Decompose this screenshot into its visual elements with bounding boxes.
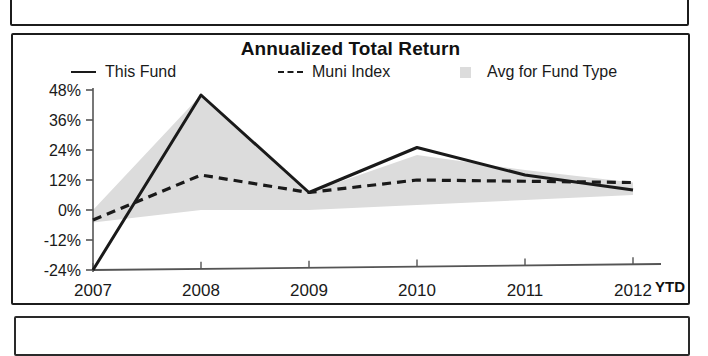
x-axis-tick-labels: 200720082009201020112012YTD: [74, 278, 685, 300]
y-axis-tick-labels: 48%36%24%12%0%-12%-24%: [44, 82, 81, 279]
svg-text:12%: 12%: [49, 172, 81, 189]
svg-text:2007: 2007: [74, 281, 112, 300]
annualized-total-return-card: Annualized Total Return This Fund Muni I…: [11, 33, 690, 305]
chart-plot-area: 48%36%24%12%0%-12%-24% 20072008200920102…: [13, 35, 692, 307]
svg-text:2008: 2008: [182, 281, 220, 300]
svg-text:36%: 36%: [49, 112, 81, 129]
svg-text:-12%: -12%: [44, 232, 81, 249]
annualized-total-return-plot: 48%36%24%12%0%-12%-24% 20072008200920102…: [13, 35, 692, 307]
svg-text:0%: 0%: [58, 202, 81, 219]
svg-text:48%: 48%: [49, 82, 81, 99]
svg-text:2010: 2010: [398, 281, 436, 300]
avg-for-fund-type-band: [93, 95, 633, 223]
panel-below-fragment: [14, 316, 690, 356]
svg-text:2009: 2009: [290, 281, 328, 300]
svg-text:24%: 24%: [49, 142, 81, 159]
svg-text:2011: 2011: [507, 281, 544, 300]
panel-above-fragment: [10, 0, 689, 26]
svg-text:-24%: -24%: [44, 262, 81, 279]
svg-text:2012: 2012: [614, 281, 652, 300]
svg-text:YTD: YTD: [655, 278, 685, 295]
